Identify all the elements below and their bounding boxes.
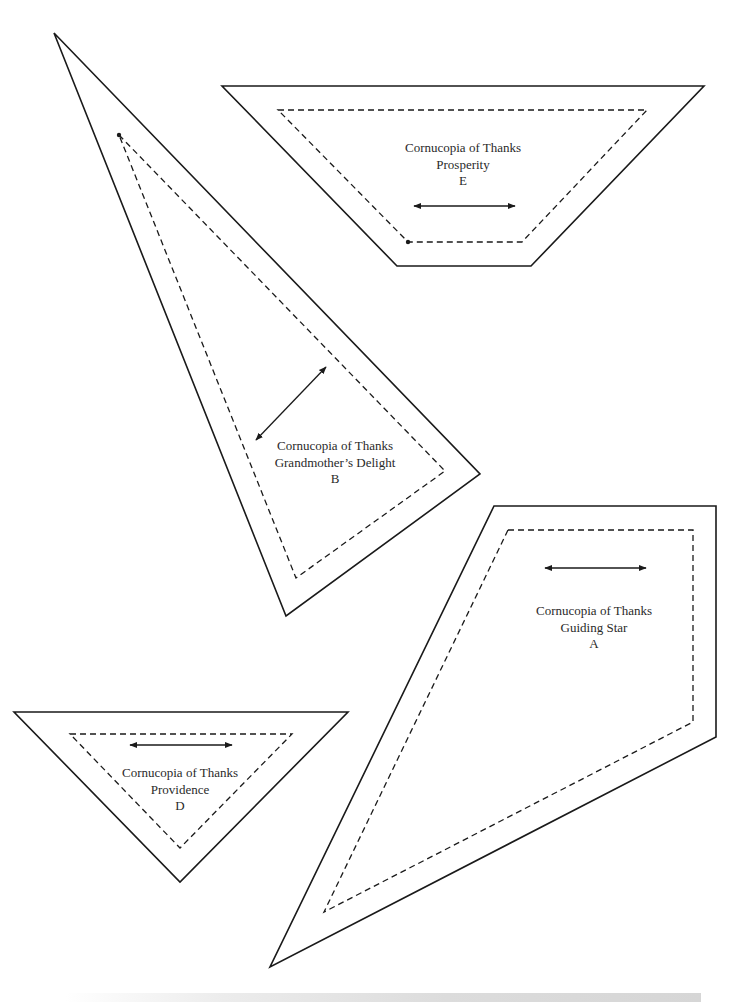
piece-b-cutting-line (54, 33, 480, 616)
piece-e-block-name: Prosperity (405, 157, 521, 174)
page-footer-band (65, 993, 701, 1002)
piece-e-label: Cornucopia of Thanks Prosperity E (405, 140, 521, 190)
piece-a-cutting-line (270, 506, 716, 967)
piece-b-block-name: Grandmother’s Delight (275, 455, 396, 472)
piece-d-pattern-name: Cornucopia of Thanks (122, 765, 238, 782)
piece-e-seam-dot-icon (406, 240, 410, 244)
piece-a-seam-line (324, 530, 693, 912)
piece-d-label: Cornucopia of Thanks Providence D (122, 765, 238, 815)
piece-b-label: Cornucopia of Thanks Grandmother’s Delig… (275, 438, 396, 488)
pattern-piece-a (270, 506, 716, 967)
piece-a-label: Cornucopia of Thanks Guiding Star A (536, 603, 652, 653)
piece-a-letter: A (536, 636, 652, 653)
piece-b-grainline-arrow-icon (256, 367, 326, 440)
piece-b-seam-line (119, 135, 445, 578)
pattern-sheet (0, 0, 752, 1002)
piece-b-pattern-name: Cornucopia of Thanks (275, 438, 396, 455)
piece-a-pattern-name: Cornucopia of Thanks (536, 603, 652, 620)
piece-a-block-name: Guiding Star (536, 620, 652, 637)
piece-e-letter: E (405, 173, 521, 190)
piece-b-letter: B (275, 471, 396, 488)
piece-d-letter: D (122, 798, 238, 815)
piece-b-seam-dot-icon (117, 133, 121, 137)
piece-d-block-name: Providence (122, 782, 238, 799)
pattern-piece-b (54, 33, 480, 616)
piece-e-pattern-name: Cornucopia of Thanks (405, 140, 521, 157)
